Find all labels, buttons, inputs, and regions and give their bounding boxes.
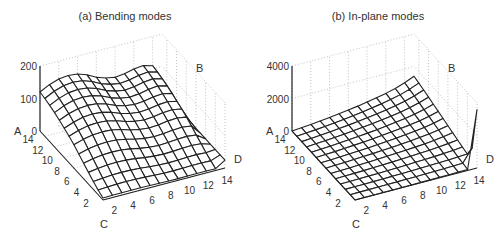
d-tick-label: 12 (203, 180, 215, 191)
axis-label-b: B (448, 62, 455, 74)
d-tick-label: 8 (168, 190, 174, 201)
axis-label-d: D (234, 153, 242, 165)
surface-plots: (a) Bending modes01002002468101214246810… (0, 0, 503, 239)
axis-label-d: D (486, 153, 494, 165)
axis-label-c: C (352, 218, 360, 230)
z-tick-label: 2000 (267, 94, 290, 105)
d-tick-label: 10 (436, 185, 448, 196)
c-tick-label: 6 (316, 176, 322, 187)
c-tick-label: 12 (32, 145, 44, 156)
c-tick-label: 14 (274, 134, 286, 145)
z-tick-label: 200 (20, 61, 37, 72)
c-tick-label: 4 (74, 187, 80, 198)
d-tick-label: 6 (401, 195, 407, 206)
axis-label-b: B (196, 62, 203, 74)
d-tick-label: 12 (455, 180, 467, 191)
c-tick-label: 10 (42, 155, 54, 166)
d-tick-label: 8 (420, 190, 426, 201)
axis-label-a: A (14, 125, 22, 137)
d-tick-label: 10 (184, 185, 196, 196)
c-tick-label: 8 (306, 166, 312, 177)
z-tick-label: 100 (20, 94, 37, 105)
axis-label-a: A (266, 125, 274, 137)
d-tick-label: 14 (473, 175, 485, 186)
c-tick-label: 14 (22, 134, 34, 145)
d-tick-label: 4 (130, 200, 136, 211)
c-tick-label: 10 (294, 155, 306, 166)
d-tick-label: 2 (112, 205, 118, 216)
panel-in-plane-modes: (b) In-plane modes0200040002468101214246… (266, 10, 494, 230)
c-tick-label: 2 (83, 198, 89, 209)
d-tick-label: 4 (382, 200, 388, 211)
chart-title: (a) Bending modes (79, 10, 172, 22)
c-tick-label: 6 (64, 176, 70, 187)
d-tick-label: 14 (221, 175, 233, 186)
panel-bending-modes: (a) Bending modes01002002468101214246810… (14, 10, 242, 230)
c-tick-label: 12 (284, 145, 296, 156)
z-tick-label: 4000 (267, 61, 290, 72)
d-tick-label: 2 (364, 205, 370, 216)
c-tick-label: 2 (335, 198, 341, 209)
axis-label-c: C (100, 218, 108, 230)
c-tick-label: 4 (326, 187, 332, 198)
c-tick-label: 8 (54, 166, 60, 177)
chart-title: (b) In-plane modes (332, 10, 425, 22)
d-tick-label: 6 (149, 195, 155, 206)
